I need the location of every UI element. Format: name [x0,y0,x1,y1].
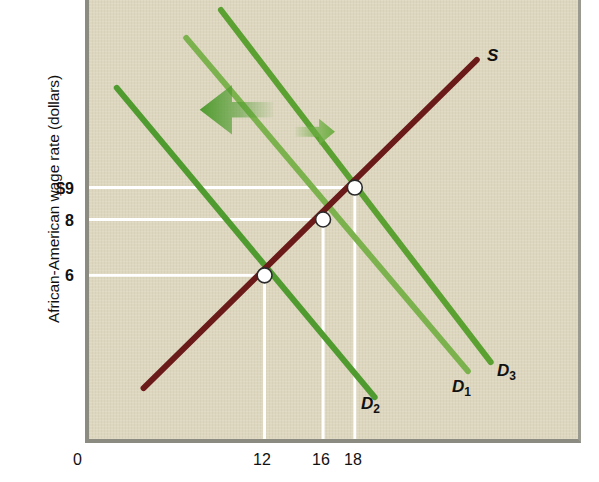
curve-label-d2-base: D [361,394,373,413]
curve-label-d3-base: D [497,361,509,380]
y-axis-title: African-American wage rate (dollars) [45,39,67,359]
x-tick-label-16: 16 [312,452,330,468]
plot-area: S D2 D1 D3 [85,0,581,443]
curve-label-d3-sub: 3 [509,369,516,383]
curve-label-d3: D3 [497,362,516,382]
curve-label-d1-sub: 1 [464,385,471,399]
economics-supply-demand-chart: African-American wage rate (dollars) $9 … [0,0,599,482]
horizontal-gridlines [89,188,355,276]
x-tick-label-12: 12 [253,452,271,468]
x-tick-label-18: 18 [344,452,362,468]
shift-right-arrow [295,119,335,145]
y-tick-label-8: 8 [0,213,74,229]
supply-curve-s [144,60,477,388]
equilibrium-point-d3 [347,180,362,195]
curve-label-supply-text: S [487,46,498,65]
y-tick-label-6: 6 [0,268,74,284]
curve-label-d2-sub: 2 [373,402,380,416]
demand-curve-d2 [117,88,375,397]
equilibrium-point-d2 [257,268,272,283]
y-tick-label-9: $9 [0,181,74,197]
curve-label-supply: S [487,47,498,64]
equilibrium-point-d1 [316,212,331,227]
curve-label-d1: D1 [452,378,471,398]
curve-label-d2: D2 [361,395,380,415]
y-tick-label-0: 0 [0,452,82,468]
curve-label-d1-base: D [452,377,464,396]
